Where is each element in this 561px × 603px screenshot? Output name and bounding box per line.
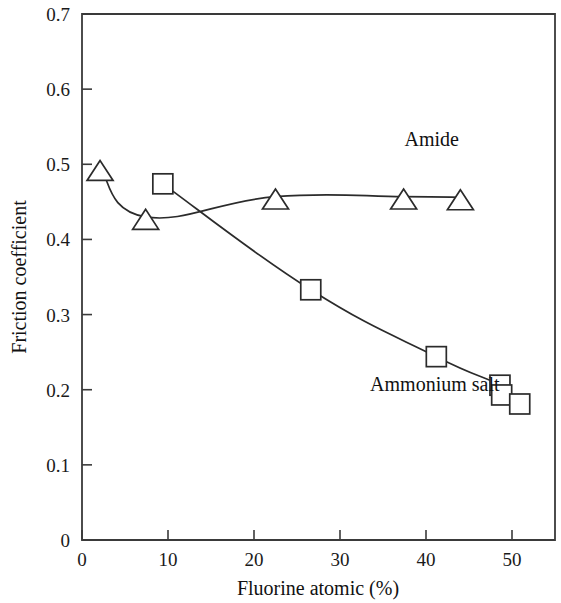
marker-square: [510, 394, 530, 414]
x-axis-ticks: 01020304050: [77, 530, 521, 570]
y-axis-title: Friction coefficient: [8, 200, 30, 354]
series-amide: [87, 160, 473, 229]
y-tick-label: 0.6: [46, 79, 70, 100]
x-tick-label: 30: [331, 549, 350, 570]
y-tick-label: 0: [61, 530, 71, 551]
x-tick-label: 10: [159, 549, 178, 570]
plot-frame: [82, 14, 555, 540]
y-tick-label: 0.2: [46, 380, 70, 401]
series-line: [163, 184, 520, 404]
marker-triangle: [87, 160, 113, 180]
y-tick-label: 0.4: [46, 229, 70, 250]
chart-svg: 00.10.20.30.40.50.60.7 01020304050 Amide…: [0, 0, 561, 603]
marker-square: [301, 280, 321, 300]
x-tick-label: 20: [245, 549, 264, 570]
marker-triangle: [263, 189, 289, 209]
y-tick-label: 0.7: [46, 4, 70, 25]
friction-coefficient-chart: 00.10.20.30.40.50.60.7 01020304050 Amide…: [0, 0, 561, 603]
y-axis-ticks: 00.10.20.30.40.50.60.7: [46, 4, 92, 551]
series-label-ammonium-salt: Ammonium salt: [370, 373, 500, 395]
axes-box: [82, 14, 555, 540]
marker-square: [153, 174, 173, 194]
y-tick-label: 0.1: [46, 455, 70, 476]
x-tick-label: 0: [77, 549, 87, 570]
y-tick-label: 0.5: [46, 154, 70, 175]
marker-triangle: [391, 189, 417, 209]
x-tick-label: 40: [417, 549, 436, 570]
x-axis-title: Fluorine atomic (%): [237, 577, 399, 600]
marker-triangle: [133, 209, 159, 229]
x-tick-label: 50: [503, 549, 522, 570]
marker-triangle: [447, 190, 473, 210]
marker-square: [426, 347, 446, 367]
series-label-amide: Amide: [405, 128, 460, 150]
y-tick-label: 0.3: [46, 305, 70, 326]
